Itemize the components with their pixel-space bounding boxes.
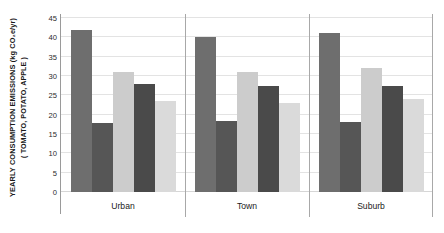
y-axis-title: YEARLY CONSUMPTION EMISSIONS (kg CO₂e/yr… bbox=[0, 0, 38, 215]
y-axis-tick-label: 40 bbox=[49, 33, 57, 42]
bars bbox=[309, 18, 433, 192]
y-axis-tick-label: 20 bbox=[49, 110, 57, 119]
bar-group-town: Town bbox=[185, 18, 309, 192]
bar-series-3-urban bbox=[113, 72, 134, 192]
x-axis-label-urban: Urban bbox=[61, 201, 185, 211]
group-separator bbox=[309, 14, 310, 217]
y-axis-tick-label: 30 bbox=[49, 72, 57, 81]
y-axis-title-line2: ( TOMATO, POTATO, APPLE ) bbox=[20, 57, 28, 158]
bar-series-3-town bbox=[237, 72, 258, 192]
y-axis-tick-label: 25 bbox=[49, 91, 57, 100]
x-axis-label-suburb: Suburb bbox=[309, 201, 433, 211]
y-axis-title-line1: YEARLY CONSUMPTION EMISSIONS (kg CO₂e/yr… bbox=[9, 18, 18, 197]
bar-chart: YEARLY CONSUMPTION EMISSIONS (kg CO₂e/yr… bbox=[0, 0, 444, 233]
bar-series-2-suburb bbox=[340, 122, 361, 192]
bar-series-4-urban bbox=[134, 84, 155, 192]
y-axis-tick-label: 35 bbox=[49, 52, 57, 61]
bar-series-1-town bbox=[195, 37, 216, 192]
y-axis-tick-label: 0 bbox=[53, 188, 57, 197]
plot-right-border bbox=[432, 14, 433, 217]
y-axis-tick-label: 5 bbox=[53, 168, 57, 177]
bars bbox=[185, 18, 309, 192]
bar-series-2-urban bbox=[92, 123, 113, 192]
plot-area: UrbanTownSuburb bbox=[61, 18, 433, 192]
x-axis-label-town: Town bbox=[185, 201, 309, 211]
bar-series-1-urban bbox=[71, 30, 92, 192]
bar-group-suburb: Suburb bbox=[309, 18, 433, 192]
bar-series-5-suburb bbox=[403, 99, 424, 192]
bar-series-4-town bbox=[258, 86, 279, 192]
group-separator bbox=[185, 14, 186, 217]
bars bbox=[61, 18, 185, 192]
bar-groups: UrbanTownSuburb bbox=[61, 18, 433, 192]
y-axis-tick-label: 10 bbox=[49, 149, 57, 158]
y-axis-tick-labels: 051015202530354045 bbox=[38, 18, 60, 192]
bar-series-1-suburb bbox=[319, 33, 340, 192]
y-axis-tick-label: 15 bbox=[49, 130, 57, 139]
bar-group-urban: Urban bbox=[61, 18, 185, 192]
bar-series-5-town bbox=[279, 103, 300, 192]
bar-series-3-suburb bbox=[361, 68, 382, 192]
y-axis-tick-label: 45 bbox=[49, 14, 57, 23]
bar-series-2-town bbox=[216, 121, 237, 192]
bar-series-5-urban bbox=[155, 101, 176, 192]
bar-series-4-suburb bbox=[382, 86, 403, 192]
